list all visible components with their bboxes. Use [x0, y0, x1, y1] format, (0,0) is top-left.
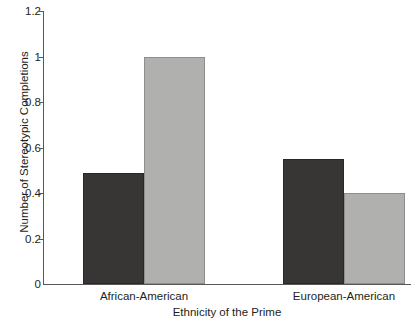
bar — [283, 159, 344, 284]
y-tick-mark — [39, 57, 43, 58]
plot-area — [44, 11, 411, 284]
bar — [344, 193, 405, 284]
y-axis-tick-labels: 00.20.40.60.811.2 — [0, 0, 41, 330]
y-tick-label: 0.2 — [5, 233, 41, 245]
bar — [83, 173, 144, 284]
y-tick-label: 0 — [5, 278, 41, 290]
bar — [144, 57, 205, 285]
bar-chart-figure: Number of Stereotypic Completions 00.20.… — [0, 0, 418, 330]
y-tick-mark — [39, 239, 43, 240]
y-tick-label: 0.6 — [5, 142, 41, 154]
x-axis-title: Ethnicity of the Prime — [43, 305, 411, 319]
x-tick-label: European-American — [274, 289, 414, 303]
x-tick-label: African-American — [74, 289, 214, 303]
y-tick-mark — [39, 148, 43, 149]
y-tick-label: 1.2 — [5, 5, 41, 17]
y-tick-mark — [39, 193, 43, 194]
y-tick-mark — [39, 102, 43, 103]
y-tick-label: 1 — [5, 51, 41, 63]
y-tick-label: 0.4 — [5, 187, 41, 199]
y-tick-label: 0.8 — [5, 96, 41, 108]
x-axis-line — [43, 284, 411, 285]
y-tick-mark — [39, 11, 43, 12]
